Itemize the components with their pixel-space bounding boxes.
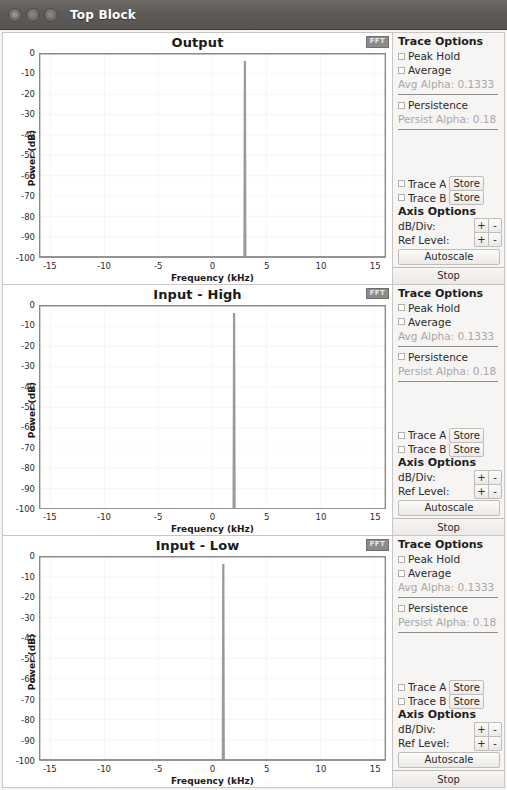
peak-hold-checkbox[interactable] xyxy=(398,304,405,311)
trace-a-store-button[interactable]: Store xyxy=(449,176,483,191)
trace-a-store-button[interactable]: Store xyxy=(449,428,483,443)
y-tick-label: -80 xyxy=(5,463,35,473)
y-tick-label: -80 xyxy=(5,715,35,725)
maximize-icon[interactable] xyxy=(44,8,58,22)
db-div-increase-button[interactable]: + xyxy=(474,218,488,233)
ref-level-decrease-button[interactable]: - xyxy=(488,484,502,499)
average-checkbox[interactable] xyxy=(398,570,405,577)
plot-area[interactable]: Output FFT Power (dB) Frequency (kHz) -1… xyxy=(3,33,392,284)
persist-alpha-value: Persist Alpha: 0.18 xyxy=(393,112,504,126)
y-tick-label: -10 xyxy=(5,572,35,582)
minimize-icon[interactable] xyxy=(26,8,40,22)
trace-a-row[interactable]: Trace A Store xyxy=(393,680,504,694)
db-div-stepper: + - xyxy=(474,722,502,737)
stop-button[interactable]: Stop xyxy=(393,518,504,535)
persistence-checkbox[interactable] xyxy=(398,353,405,360)
x-tick-label: 10 xyxy=(316,512,327,522)
ref-level-increase-button[interactable]: + xyxy=(474,484,488,499)
y-tick-label: -10 xyxy=(5,320,35,330)
average-checkbox[interactable] xyxy=(398,318,405,325)
fft-badge[interactable]: FFT xyxy=(366,288,389,300)
y-tick-label: 0 xyxy=(5,551,35,561)
y-tick-label: -100 xyxy=(5,253,35,263)
db-div-decrease-button[interactable]: - xyxy=(488,722,502,737)
peak-hold-row[interactable]: Peak Hold xyxy=(393,301,504,315)
trace-b-row[interactable]: Trace B Store xyxy=(393,442,504,456)
fft-badge[interactable]: FFT xyxy=(366,539,389,551)
plot-area[interactable]: Input - Low FFT Power (dB) Frequency (kH… xyxy=(3,536,392,787)
y-tick-label: -100 xyxy=(5,756,35,766)
average-row[interactable]: Average xyxy=(393,315,504,329)
db-div-row: dB/Div: + - xyxy=(393,219,504,233)
x-tick-label: -5 xyxy=(154,512,162,522)
ref-level-decrease-button[interactable]: - xyxy=(488,736,502,751)
x-axis-label: Frequency (kHz) xyxy=(41,776,384,786)
persistence-checkbox[interactable] xyxy=(398,102,405,109)
avg-alpha-value: Avg Alpha: 0.1333 xyxy=(393,329,504,343)
trace-a-row[interactable]: Trace A Store xyxy=(393,428,504,442)
persistence-row[interactable]: Persistence xyxy=(393,350,504,364)
y-tick-label: -20 xyxy=(5,341,35,351)
spectrum-trace xyxy=(39,305,386,510)
spectrum-trace xyxy=(39,53,386,258)
plots-container: Output FFT Power (dB) Frequency (kHz) -1… xyxy=(0,30,507,790)
trace-b-row[interactable]: Trace B Store xyxy=(393,694,504,708)
ref-level-decrease-button[interactable]: - xyxy=(488,232,502,247)
autoscale-button[interactable]: Autoscale xyxy=(398,249,500,265)
fft-badge[interactable]: FFT xyxy=(366,36,389,48)
ref-level-increase-button[interactable]: + xyxy=(474,232,488,247)
trace-a-checkbox[interactable] xyxy=(398,180,405,187)
panel-spacer xyxy=(393,636,504,680)
trace-a-label: Trace A xyxy=(408,680,446,694)
trace-a-store-button[interactable]: Store xyxy=(449,680,483,695)
db-div-label: dB/Div: xyxy=(398,470,436,484)
y-tick-label: -30 xyxy=(5,109,35,119)
peak-hold-row[interactable]: Peak Hold xyxy=(393,49,504,63)
persistence-row[interactable]: Persistence xyxy=(393,601,504,615)
trace-a-row[interactable]: Trace A Store xyxy=(393,177,504,191)
trace-b-checkbox[interactable] xyxy=(398,446,405,453)
ref-level-increase-button[interactable]: + xyxy=(474,736,488,751)
stop-button[interactable]: Stop xyxy=(393,770,504,787)
trace-b-store-button[interactable]: Store xyxy=(449,442,483,457)
avg-alpha-value: Avg Alpha: 0.1333 xyxy=(393,580,504,594)
ref-level-row: Ref Level: + - xyxy=(393,233,504,247)
trace-b-checkbox[interactable] xyxy=(398,194,405,201)
db-div-decrease-button[interactable]: - xyxy=(488,470,502,485)
plot-area[interactable]: Input - High FFT Power (dB) Frequency (k… xyxy=(3,285,392,536)
peak-hold-checkbox[interactable] xyxy=(398,556,405,563)
db-div-increase-button[interactable]: + xyxy=(474,722,488,737)
trace-b-row[interactable]: Trace B Store xyxy=(393,191,504,205)
close-icon[interactable] xyxy=(8,8,22,22)
plot-canvas xyxy=(39,305,386,510)
y-tick-label: -40 xyxy=(5,633,35,643)
trace-a-checkbox[interactable] xyxy=(398,432,405,439)
peak-hold-checkbox[interactable] xyxy=(398,53,405,60)
x-tick-label: 5 xyxy=(264,512,269,522)
trace-b-store-button[interactable]: Store xyxy=(449,694,483,709)
divider xyxy=(398,597,498,598)
average-checkbox[interactable] xyxy=(398,67,405,74)
trace-b-store-button[interactable]: Store xyxy=(449,190,483,205)
db-div-increase-button[interactable]: + xyxy=(474,470,488,485)
average-label: Average xyxy=(408,566,451,580)
persistence-checkbox[interactable] xyxy=(398,605,405,612)
axis-options-heading: Axis Options xyxy=(393,456,504,470)
peak-hold-label: Peak Hold xyxy=(408,49,460,63)
average-row[interactable]: Average xyxy=(393,566,504,580)
plot-title: Input - High xyxy=(3,287,392,302)
persistence-row[interactable]: Persistence xyxy=(393,98,504,112)
x-tick-label: -5 xyxy=(154,764,162,774)
autoscale-button[interactable]: Autoscale xyxy=(398,500,500,516)
x-tick-label: -15 xyxy=(43,261,57,271)
average-row[interactable]: Average xyxy=(393,63,504,77)
x-tick-label: 5 xyxy=(264,261,269,271)
peak-hold-row[interactable]: Peak Hold xyxy=(393,552,504,566)
trace-b-checkbox[interactable] xyxy=(398,698,405,705)
stop-button[interactable]: Stop xyxy=(393,267,504,284)
trace-a-checkbox[interactable] xyxy=(398,684,405,691)
persist-alpha-value: Persist Alpha: 0.18 xyxy=(393,364,504,378)
autoscale-button[interactable]: Autoscale xyxy=(398,752,500,768)
y-tick-label: -30 xyxy=(5,361,35,371)
db-div-decrease-button[interactable]: - xyxy=(488,218,502,233)
